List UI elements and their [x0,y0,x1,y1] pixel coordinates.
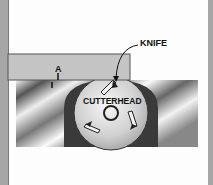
gap-label: A [55,64,62,74]
knife-label: KNIFE [140,38,167,48]
diagram-frame: A KNIFE CUTTERHEAD [0,0,213,185]
cutterhead-diagram: A KNIFE CUTTERHEAD [0,0,213,185]
workpiece-board [8,54,130,80]
cutterhead-label: CUTTERHEAD [83,96,142,106]
